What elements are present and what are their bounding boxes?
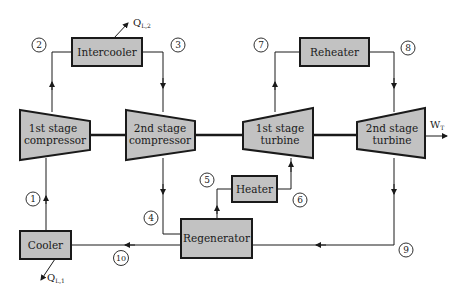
- flow-line-8: [369, 52, 394, 112]
- intercooler-heat-label: QL,2: [133, 17, 151, 29]
- state-10: 10: [114, 251, 129, 266]
- state-9: 9: [399, 243, 413, 257]
- state-7: 7: [254, 38, 268, 52]
- state-2: 2: [32, 38, 46, 52]
- svg-text:10: 10: [116, 254, 126, 263]
- flow-line-5: [217, 189, 232, 219]
- svg-text:7: 7: [258, 40, 264, 50]
- state-6: 6: [293, 193, 307, 207]
- reheater-label: Reheater: [310, 46, 360, 58]
- svg-text:3: 3: [175, 40, 181, 50]
- second-stage-compressor: 2nd stage compressor: [126, 110, 195, 160]
- intercooler-label: Intercooler: [77, 46, 137, 58]
- second-stage-turbine: 2nd stage turbine: [357, 108, 425, 158]
- heater: Heater: [232, 176, 277, 202]
- intercooler: Intercooler: [72, 38, 142, 66]
- flow-line-2: [52, 52, 72, 112]
- compressor2-label-line1: 2nd stage: [134, 122, 186, 134]
- reheater: Reheater: [300, 38, 369, 66]
- regenerator-label: Regenerator: [183, 232, 251, 244]
- compressor1-label-line2: compressor: [24, 134, 87, 146]
- turbine2-label-line1: 2nd stage: [366, 122, 418, 134]
- heater-label: Heater: [236, 183, 274, 195]
- turbine1-label-line1: 1st stage: [256, 122, 304, 134]
- svg-text:6: 6: [297, 195, 303, 205]
- flow-line-3: [142, 52, 163, 112]
- state-5: 5: [200, 173, 214, 187]
- compressor1-label-line1: 1st stage: [29, 122, 77, 134]
- turbine-work-label: WT: [430, 119, 444, 131]
- flow-line-6: [277, 158, 291, 189]
- cooler: Cooler: [20, 231, 71, 259]
- turbine1-label-line2: turbine: [260, 134, 299, 146]
- svg-text:2: 2: [36, 40, 42, 50]
- state-1: 1: [26, 192, 40, 206]
- svg-text:8: 8: [405, 43, 411, 53]
- flow-line-7: [275, 52, 300, 112]
- state-4: 4: [144, 211, 158, 225]
- svg-text:5: 5: [204, 175, 210, 185]
- svg-text:4: 4: [148, 213, 154, 223]
- flow-line-4: [163, 158, 181, 234]
- regenerator: Regenerator: [181, 219, 252, 258]
- svg-text:9: 9: [403, 245, 409, 255]
- cooler-heat-label: QL,1: [47, 272, 65, 284]
- intercooler-heat-arrow: [114, 23, 128, 38]
- turbine2-label-line2: turbine: [372, 134, 411, 146]
- first-stage-compressor: 1st stage compressor: [20, 110, 90, 160]
- svg-text:1: 1: [30, 194, 36, 204]
- cooler-label: Cooler: [28, 239, 64, 251]
- state-3: 3: [171, 38, 185, 52]
- compressor2-label-line2: compressor: [129, 134, 192, 146]
- first-stage-turbine: 1st stage turbine: [243, 108, 313, 158]
- cycle-diagram: Intercooler QL,2 Reheater 1st stage comp…: [0, 0, 463, 296]
- state-8: 8: [401, 41, 415, 55]
